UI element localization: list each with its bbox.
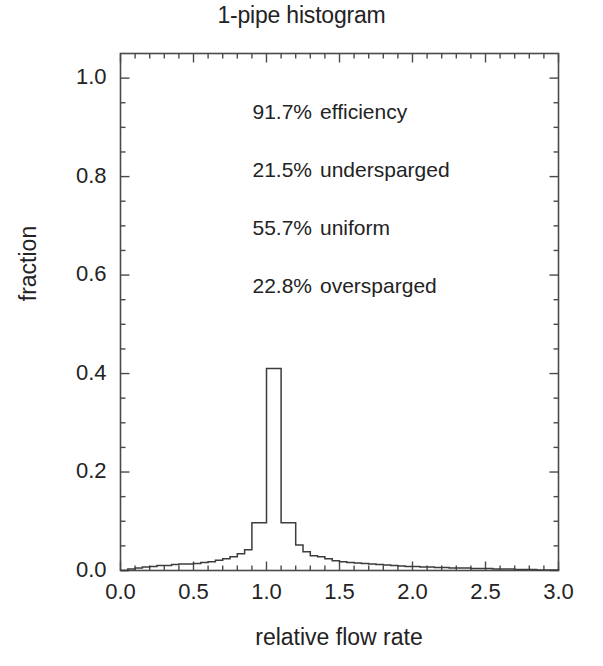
annotation-value: 22.8% <box>220 274 312 298</box>
x-tick-label: 0.5 <box>159 579 229 605</box>
annotation-value: 91.7% <box>220 100 312 124</box>
x-tick-label: 2.0 <box>378 579 448 605</box>
y-tick-label: 0.2 <box>37 458 107 484</box>
y-tick-label: 0.8 <box>37 163 107 189</box>
annotation-label: uniform <box>320 216 390 240</box>
y-tick-label: 0.4 <box>37 360 107 386</box>
chart-figure: 1-pipe histogram fraction relative flow … <box>0 0 603 666</box>
x-tick-label: 0.0 <box>86 579 156 605</box>
y-tick-label: 0.6 <box>37 261 107 287</box>
x-tick-label: 1.5 <box>305 579 375 605</box>
x-tick-label: 2.5 <box>451 579 521 605</box>
annotation-label: undersparged <box>320 158 450 182</box>
annotation-value: 55.7% <box>220 216 312 240</box>
annotation-value: 21.5% <box>220 158 312 182</box>
annotation-label: efficiency <box>320 100 407 124</box>
annotation-label: oversparged <box>320 274 437 298</box>
x-tick-label: 1.0 <box>232 579 302 605</box>
plot-frame <box>121 54 559 571</box>
y-tick-label: 1.0 <box>37 64 107 90</box>
x-tick-label: 3.0 <box>524 579 594 605</box>
